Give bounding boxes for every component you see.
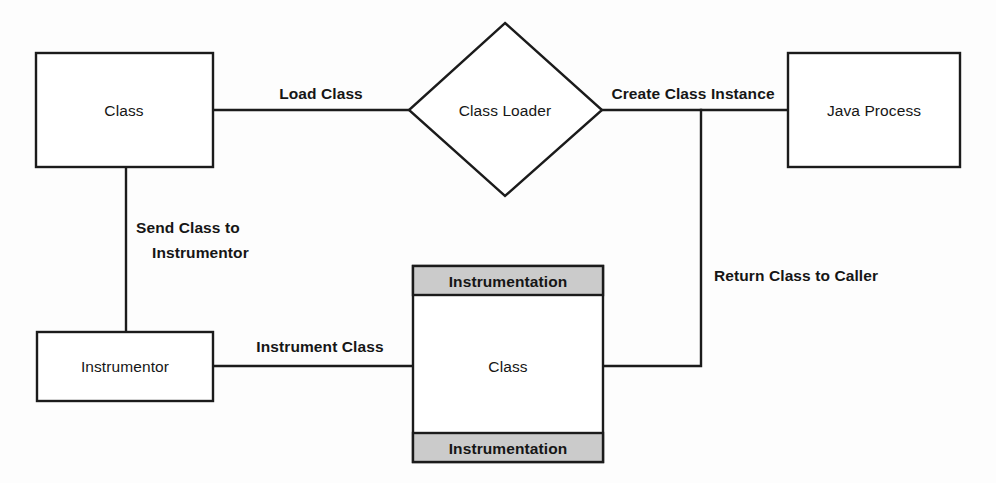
- diagram-canvas-container: Class Class Loader Java Process Instrume…: [0, 0, 996, 483]
- edge-label-instrument-class: Instrument Class: [256, 338, 383, 355]
- node-class-loader[interactable]: Class Loader: [409, 23, 602, 196]
- edge-label-send-class-line1: Send Class to: [136, 219, 240, 236]
- node-class-source[interactable]: Class: [36, 53, 213, 167]
- edge-label-return-class-to-caller: Return Class to Caller: [714, 267, 878, 284]
- instrumented-class-label: Class: [488, 358, 527, 375]
- class-loader-label: Class Loader: [459, 102, 552, 119]
- edge-label-load-class: Load Class: [279, 85, 363, 102]
- node-java-process[interactable]: Java Process: [788, 53, 960, 167]
- node-instrumented-class[interactable]: Instrumentation Class Instrumentation: [413, 266, 603, 462]
- node-instrumentor[interactable]: Instrumentor: [37, 332, 213, 401]
- instrumentation-bottom-label: Instrumentation: [449, 440, 568, 457]
- class-loading-flow-diagram: Class Class Loader Java Process Instrume…: [0, 0, 996, 483]
- edge-label-create-class-instance: Create Class Instance: [611, 85, 774, 102]
- java-process-label: Java Process: [827, 102, 921, 119]
- instrumentor-label: Instrumentor: [81, 358, 169, 375]
- class-source-label: Class: [104, 102, 143, 119]
- connector-return-class-to-caller: [603, 110, 701, 366]
- instrumentation-top-label: Instrumentation: [449, 273, 568, 290]
- edge-label-send-class-line2: Instrumentor: [152, 244, 249, 261]
